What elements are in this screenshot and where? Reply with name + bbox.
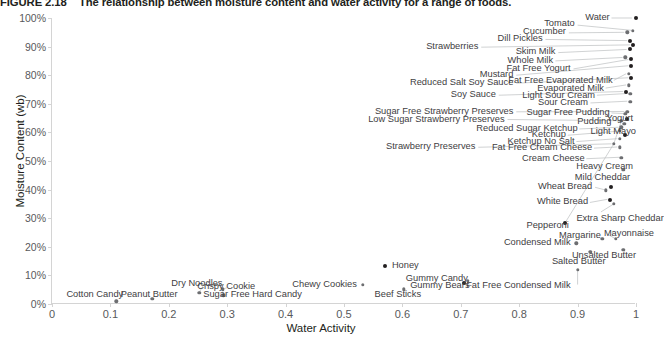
y-axis-title: Moisture Content (wb) [14,71,26,231]
y-tick-label: 10% [6,269,46,281]
leader-line [576,139,617,142]
data-point-label: Peanut Butter [121,291,178,301]
data-point [618,146,621,149]
data-point [620,156,623,159]
x-tick-mark [636,303,637,307]
y-tick-label: 90% [6,41,46,53]
y-tick-label: 60% [6,126,46,138]
data-point-label: Condensed Milk [504,238,571,248]
data-point-label: Dill Pickles [498,34,543,44]
data-point [629,76,633,80]
data-point-label: Honey [392,261,419,271]
x-tick-label: 0.1 [103,308,118,320]
x-tick-mark [402,303,403,307]
leader-line [574,59,629,68]
data-point-label: Sugar Free Hard Candy [203,291,302,301]
figure-caption-text: The relationship between moisture conten… [79,0,511,8]
data-point [576,268,579,271]
y-tick-mark [48,132,52,133]
data-point [631,29,634,32]
x-tick-label: 0.4 [278,308,293,320]
data-point [629,64,633,68]
y-tick-mark [48,247,52,248]
plot-area: 0%10%20%30%40%50%60%70%80%90%100% 00.10.… [51,18,635,304]
data-point [383,264,387,268]
x-tick-label: 0.5 [336,308,351,320]
y-tick-mark [48,75,52,76]
data-point [604,188,607,191]
leader-line [590,199,608,202]
data-point-label: Water [585,13,609,23]
data-point [628,100,631,103]
data-point [612,202,615,205]
y-tick-label: 0% [6,298,46,310]
x-tick-mark [286,303,287,307]
x-tick-label: 0.2 [161,308,176,320]
data-point [624,90,628,94]
data-point [626,31,629,34]
data-point-label: Chewy Cookies [292,280,357,290]
x-tick-mark [578,303,579,307]
data-point [575,242,578,245]
y-tick-mark [48,47,52,48]
y-tick-label: 40% [6,184,46,196]
data-point [627,84,630,87]
y-tick-label: 70% [6,98,46,110]
x-tick-label: 0 [49,308,55,320]
y-tick-mark [48,18,52,19]
data-point-label: Fat Free Condensed Milk [466,281,570,291]
leader-line [545,39,627,40]
leader-line [481,45,630,47]
y-tick-label: 80% [6,69,46,81]
data-point [631,43,635,47]
x-axis-title: Water Activity [0,322,642,334]
leader-line [590,101,627,103]
data-point-label: Salted Butter [552,257,606,267]
leader-line [614,74,626,81]
x-tick-mark [52,303,53,307]
x-tick-label: 0.6 [395,308,410,320]
data-point-label: Fat Free Yogurt [506,64,570,74]
data-point [609,185,613,189]
data-point [634,16,638,20]
y-tick-label: 50% [6,155,46,167]
data-point-label: Reduced Salt Soy Sauce [410,78,513,88]
data-point [361,283,364,286]
data-point-label: Cream Cheese [522,154,585,164]
data-point-label: Cotton Candy [66,291,123,301]
data-point-label: Strawberry Preserves [386,142,475,152]
data-point [612,142,615,145]
figure-caption: FIGURE 2.18 The relationship between moi… [0,0,642,12]
y-tick-label: 30% [6,212,46,224]
leader-line [595,187,604,189]
data-point-label: Extra Sharp Cheddar [576,214,663,224]
y-tick-mark [48,161,52,162]
leader-line [601,204,614,212]
leader-line [569,32,624,33]
x-tick-mark [110,303,111,307]
data-point [624,56,627,59]
leader-line [586,157,619,158]
data-point [618,137,621,140]
leader-line [555,57,622,60]
figure-number: FIGURE 2.18 [0,0,67,8]
x-tick-label: 0.7 [453,308,468,320]
data-point [629,57,633,61]
y-tick-mark [48,190,52,191]
data-point-label: Wheat Bread [538,182,592,192]
x-tick-label: 1 [633,308,639,320]
data-point-label: White Bread [537,198,588,208]
x-tick-label: 0.8 [512,308,527,320]
leader-line [594,147,617,148]
y-tick-label: 100% [6,12,46,24]
data-point-label: Dry Noodles [171,279,222,289]
x-tick-mark [169,303,170,307]
data-point [608,198,612,202]
data-point [628,92,631,95]
leader-line [558,49,626,52]
x-tick-mark [519,303,520,307]
data-point-label: Heavy Cream [576,162,633,172]
x-tick-mark [227,303,228,307]
x-tick-label: 0.9 [570,308,585,320]
